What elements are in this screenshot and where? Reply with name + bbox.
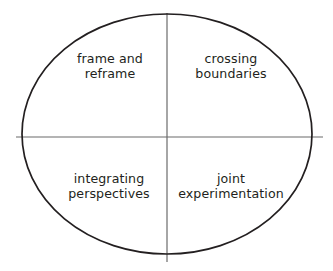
quadrant-label-integrating-perspectives: integrating perspectives [54,172,164,202]
quadrant-label-crossing-boundaries: crossing boundaries [176,52,286,82]
quadrant-label-joint-experimentation: joint experimentation [170,172,292,202]
quadrant-ellipse-diagram: frame and reframe crossing boundaries in… [0,0,333,271]
diagram-canvas [0,0,333,271]
quadrant-label-frame-and-reframe: frame and reframe [58,52,162,82]
